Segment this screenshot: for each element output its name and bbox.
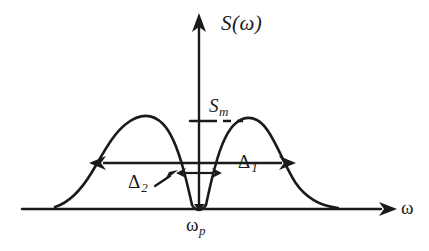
omega-p-label-base: ω: [186, 214, 199, 235]
sm-label: Sm: [209, 96, 228, 118]
delta1-measure-arrow: [89, 156, 296, 170]
delta1-label: Δ1: [238, 152, 258, 174]
y-axis-label: S(ω): [221, 13, 262, 34]
x-axis-label: ω: [401, 198, 414, 217]
y-axis: [192, 13, 206, 209]
delta1-label-base: Δ: [238, 151, 250, 172]
figure-container: S(ω) Sm Δ1 Δ2 ωp ω: [0, 0, 429, 251]
x-axis: [22, 202, 397, 216]
delta2-label-subscript: 2: [141, 180, 148, 195]
sm-label-subscript: m: [219, 104, 228, 119]
delta2-leader-arrowhead-icon: [163, 170, 178, 182]
delta2-leader-arrow: [155, 170, 178, 186]
spectral-density-plot: [0, 0, 429, 251]
delta2-label-base: Δ: [128, 171, 140, 192]
omega-p-label: ωp: [186, 215, 206, 237]
sm-label-base: S: [209, 95, 219, 116]
delta2-label: Δ2: [128, 172, 148, 194]
delta1-label-subscript: 1: [251, 160, 258, 175]
omega-p-label-subscript: p: [199, 223, 206, 238]
